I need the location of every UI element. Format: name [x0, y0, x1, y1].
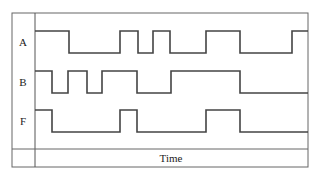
signal-label-a: A [19, 36, 27, 48]
signal-label-f: F [20, 115, 26, 127]
time-axis-label: Time [160, 152, 183, 164]
waveform-a [35, 31, 308, 53]
diagram-border [12, 13, 308, 167]
timing-diagram: A B F Time [0, 0, 315, 176]
waveform-b [35, 71, 308, 93]
waveform-f [35, 110, 308, 132]
signal-label-b: B [19, 76, 26, 88]
